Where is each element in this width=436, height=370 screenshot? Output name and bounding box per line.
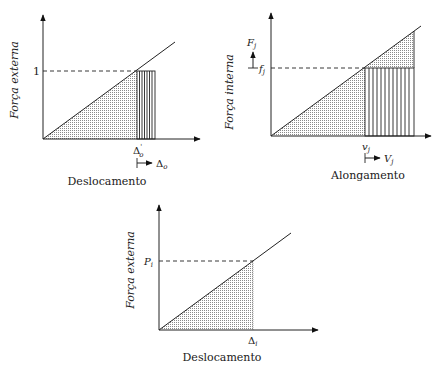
- x-tick-label: Δi: [248, 335, 257, 348]
- virtual-displacement-label: Δo: [156, 158, 167, 171]
- virtual-work-rect: [365, 68, 414, 136]
- virtual-force-label: Fj: [246, 37, 257, 50]
- y-tick-label: fj: [258, 63, 266, 76]
- diagram-canvas: 1 Força externa Δ'o Δo Deslocamento: [0, 0, 436, 370]
- x-tick-label: Δ'o: [133, 143, 143, 159]
- y-axis-label: Força externa: [124, 231, 137, 310]
- y-tick-label: Pi: [143, 256, 153, 269]
- virtual-work-rect: [137, 71, 155, 139]
- chart-external-force-2: Pi Força externa Δi Deslocamento: [124, 205, 318, 364]
- y-tick-label: 1: [33, 65, 40, 78]
- y-axis-label: Força externa: [8, 41, 21, 120]
- x-axis-label: Deslocamento: [68, 175, 147, 188]
- y-axis-label: Força interna: [223, 54, 236, 131]
- x-axis-label: Deslocamento: [183, 351, 262, 364]
- x-tick-label: vj: [362, 141, 371, 154]
- virtual-elongation-label: Vj: [384, 153, 394, 166]
- chart-external-force-1: 1 Força externa Δ'o Δo Deslocamento: [8, 15, 200, 188]
- x-axis-label: Alongamento: [330, 169, 405, 182]
- chart-internal-force: Fj fj Força interna vj Vj Alongamento: [223, 13, 431, 182]
